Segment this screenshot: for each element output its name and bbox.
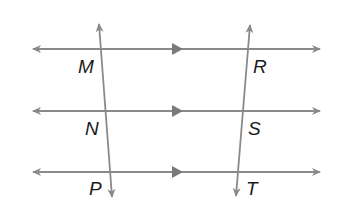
line-bottom <box>33 166 320 178</box>
parallel-marker-icon <box>172 166 183 178</box>
point-label-r: R <box>253 56 267 77</box>
line-middle <box>33 105 320 117</box>
parallel-marker-icon <box>172 105 183 117</box>
parallel-marker-icon <box>172 43 183 55</box>
point-label-n: N <box>85 118 99 139</box>
point-label-p: P <box>89 178 102 199</box>
point-label-m: M <box>78 56 94 77</box>
line-top <box>33 43 320 55</box>
point-label-t: T <box>246 178 259 199</box>
point-label-s: S <box>248 118 261 139</box>
parallel-lines-diagram: M N P R S T <box>0 0 338 209</box>
